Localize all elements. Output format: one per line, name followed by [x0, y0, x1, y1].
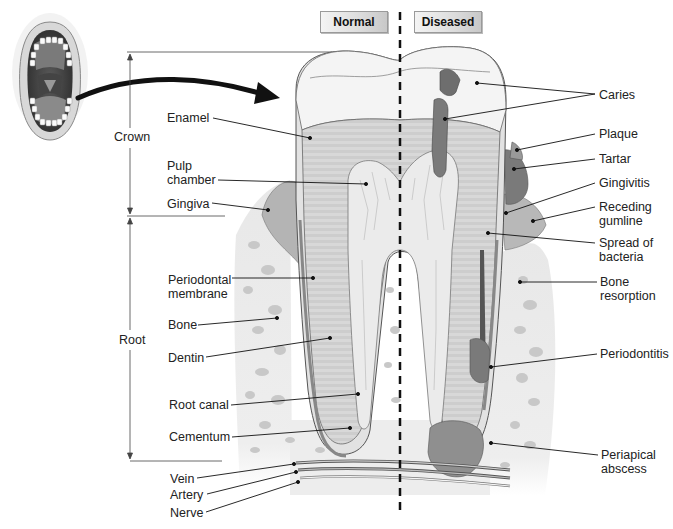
label-caries: Caries: [599, 88, 635, 102]
label-plaque: Plaque: [599, 127, 638, 141]
open-mouth-icon: [12, 13, 88, 140]
label-gingiva: Gingiva: [167, 197, 209, 211]
label-periapical-abscess: Periapical abscess: [601, 448, 656, 476]
label-gingivitis: Gingivitis: [599, 176, 650, 190]
label-enamel: Enamel: [167, 111, 209, 125]
label-periodontal-membrane: Periodontal membrane: [168, 273, 231, 301]
diseased-header: Diseased: [414, 11, 482, 33]
normal-header: Normal: [320, 11, 388, 33]
label-crown: Crown: [114, 130, 150, 144]
label-tartar: Tartar: [599, 152, 631, 166]
label-spread-of-bacteria: Spread of bacteria: [599, 236, 653, 264]
label-dentin: Dentin: [168, 351, 204, 365]
label-bone-resorption: Bone resorption: [600, 275, 656, 303]
label-root-canal: Root canal: [169, 398, 229, 412]
label-pulp-chamber: Pulp chamber: [167, 159, 216, 187]
tooth-anatomy-diagram: Normal Diseased Crown Root Enamel Pulp c…: [0, 0, 673, 529]
label-receding-gumline: Receding gumline: [599, 200, 652, 228]
label-periodontitis: Periodontitis: [600, 347, 669, 361]
label-vein: Vein: [170, 472, 194, 486]
label-bone: Bone: [168, 318, 197, 332]
label-root: Root: [119, 333, 145, 347]
label-cementum: Cementum: [169, 430, 230, 444]
arrow-icon: [78, 79, 280, 104]
label-artery: Artery: [170, 488, 203, 502]
label-nerve: Nerve: [170, 506, 203, 520]
